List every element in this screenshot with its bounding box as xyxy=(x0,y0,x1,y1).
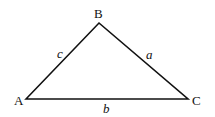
vertex-label-c: C xyxy=(192,93,201,108)
triangle-svg: B A C c a b xyxy=(0,0,215,117)
triangle-diagram: B A C c a b xyxy=(0,0,215,117)
side-label-a: a xyxy=(146,47,153,62)
vertex-label-b: B xyxy=(94,6,103,21)
side-label-c: c xyxy=(57,46,63,61)
triangle-abc xyxy=(26,23,188,99)
side-label-b: b xyxy=(103,101,110,116)
vertex-label-a: A xyxy=(14,93,24,108)
